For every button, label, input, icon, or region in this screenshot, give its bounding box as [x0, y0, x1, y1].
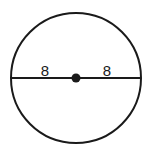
circle-diagram-figure: 8 8 [0, 0, 149, 146]
right-radius-label: 8 [103, 62, 111, 79]
center-dot [72, 74, 81, 83]
figure-background [0, 0, 149, 146]
diagram-canvas: 8 8 [0, 0, 149, 146]
left-radius-label: 8 [41, 62, 49, 79]
